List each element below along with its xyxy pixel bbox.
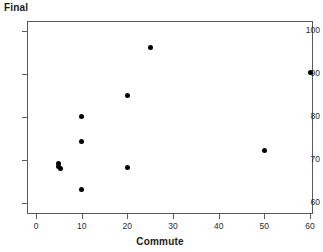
x-tick-mark xyxy=(127,214,128,219)
y-tick-mark xyxy=(22,31,27,32)
x-tick-label: 20 xyxy=(114,221,140,231)
x-tick-label: 40 xyxy=(206,221,232,231)
y-tick-mark xyxy=(22,160,27,161)
x-tick-label: 30 xyxy=(160,221,186,231)
data-point xyxy=(308,70,313,75)
plot-data-area xyxy=(28,22,312,213)
y-tick-mark xyxy=(22,74,27,75)
x-tick-mark xyxy=(310,214,311,219)
data-point xyxy=(58,166,63,171)
data-point xyxy=(148,45,153,50)
y-tick-mark xyxy=(22,203,27,204)
x-axis-title: Commute xyxy=(0,236,320,247)
y-axis-title: Final xyxy=(4,2,28,13)
data-point xyxy=(125,93,130,98)
x-tick-mark xyxy=(82,214,83,219)
y-tick-mark xyxy=(22,117,27,118)
x-tick-label: 60 xyxy=(297,221,323,231)
x-tick-mark xyxy=(36,214,37,219)
x-tick-mark xyxy=(219,214,220,219)
x-tick-label: 50 xyxy=(251,221,277,231)
x-tick-mark xyxy=(264,214,265,219)
x-tick-label: 10 xyxy=(69,221,95,231)
x-tick-label: 0 xyxy=(23,221,49,231)
x-tick-mark xyxy=(173,214,174,219)
